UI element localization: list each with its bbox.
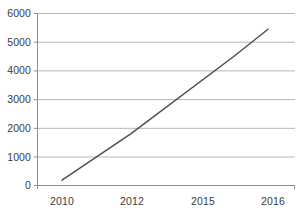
x-axis-label-2015: 2015 <box>181 196 225 207</box>
y-axis-label-5000: 5000 <box>0 37 31 48</box>
y-axis-label-3000: 3000 <box>0 94 31 105</box>
x-axis-label-2016: 2016 <box>251 196 295 207</box>
y-axis-label-6000: 6000 <box>0 8 31 19</box>
y-axis-label-1000: 1000 <box>0 152 31 163</box>
y-axis-label-0: 0 <box>0 180 31 191</box>
y-axis-label-4000: 4000 <box>0 65 31 76</box>
y-axis-label-2000: 2000 <box>0 123 31 134</box>
x-axis-label-2012: 2012 <box>110 196 154 207</box>
y-tick-marks <box>34 14 37 186</box>
x-axis-label-2010: 2010 <box>40 196 84 207</box>
line-chart: 6000 5000 4000 3000 2000 1000 0 2010 201… <box>0 0 303 219</box>
chart-canvas <box>0 0 303 219</box>
